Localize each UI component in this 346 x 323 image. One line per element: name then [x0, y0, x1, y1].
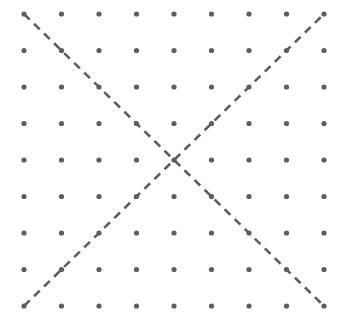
grid-dot: [284, 84, 289, 89]
grid-dot: [96, 11, 101, 16]
grid-dot: [321, 230, 326, 235]
grid-dot: [209, 121, 214, 126]
grid-dot: [21, 230, 26, 235]
grid-dot: [59, 230, 64, 235]
grid-dot: [209, 267, 214, 272]
grid-dot: [209, 48, 214, 53]
grid-dot: [21, 194, 26, 199]
grid-dot: [59, 121, 64, 126]
grid-dot: [284, 121, 289, 126]
grid-dot: [134, 303, 139, 308]
grid-dot: [171, 11, 176, 16]
grid-dot: [321, 48, 326, 53]
grid-dot: [96, 194, 101, 199]
grid-dot: [96, 303, 101, 308]
grid-dot: [21, 267, 26, 272]
grid-dot: [321, 84, 326, 89]
grid-dot: [284, 157, 289, 162]
grid-dot: [134, 48, 139, 53]
grid-dot: [321, 157, 326, 162]
grid-dot: [171, 194, 176, 199]
grid-dot: [284, 267, 289, 272]
grid-dot: [171, 157, 176, 162]
grid-dot: [209, 303, 214, 308]
grid-dot: [246, 48, 251, 53]
grid-dot: [284, 48, 289, 53]
grid-dot: [209, 157, 214, 162]
grid-dot: [21, 303, 26, 308]
grid-dot: [209, 84, 214, 89]
grid-dot: [96, 121, 101, 126]
grid-dot: [96, 84, 101, 89]
grid-dot: [246, 194, 251, 199]
grid-dot: [96, 230, 101, 235]
grid-dot: [321, 194, 326, 199]
grid-dot: [321, 121, 326, 126]
grid-dot: [284, 303, 289, 308]
grid-dot: [171, 267, 176, 272]
figure-canvas: [0, 0, 346, 323]
grid-dot: [134, 194, 139, 199]
grid-dot: [321, 303, 326, 308]
grid-dot: [134, 230, 139, 235]
grid-dot: [209, 194, 214, 199]
grid-dot: [171, 303, 176, 308]
grid-dot: [134, 11, 139, 16]
dot-grid-figure: [0, 0, 346, 323]
grid-dot: [246, 157, 251, 162]
grid-dot: [21, 157, 26, 162]
grid-dot: [21, 48, 26, 53]
grid-dot: [96, 157, 101, 162]
grid-dot: [246, 230, 251, 235]
grid-dot: [321, 267, 326, 272]
grid-dot: [284, 11, 289, 16]
grid-dot: [246, 267, 251, 272]
grid-dot: [171, 48, 176, 53]
grid-dot: [21, 121, 26, 126]
grid-dot: [246, 121, 251, 126]
grid-dot: [59, 84, 64, 89]
grid-dot: [59, 48, 64, 53]
grid-dot: [209, 230, 214, 235]
grid-dot: [209, 11, 214, 16]
grid-dot: [59, 11, 64, 16]
grid-dot: [321, 11, 326, 16]
grid-dot: [21, 84, 26, 89]
grid-dot: [171, 230, 176, 235]
grid-dot: [96, 48, 101, 53]
grid-dot: [171, 121, 176, 126]
grid-dot: [59, 267, 64, 272]
grid-dot: [284, 194, 289, 199]
grid-dot: [246, 303, 251, 308]
grid-dot: [171, 84, 176, 89]
grid-dot: [284, 230, 289, 235]
grid-dot: [134, 267, 139, 272]
grid-dot: [134, 157, 139, 162]
grid-dot: [134, 121, 139, 126]
grid-dot: [59, 194, 64, 199]
grid-dot: [21, 11, 26, 16]
grid-dot: [96, 267, 101, 272]
grid-dot: [246, 11, 251, 16]
grid-dot: [134, 84, 139, 89]
grid-dot: [59, 303, 64, 308]
grid-dot: [246, 84, 251, 89]
grid-dot: [59, 157, 64, 162]
